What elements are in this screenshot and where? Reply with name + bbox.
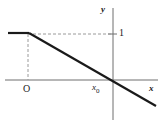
y-axis-label: y [101,5,105,14]
origin-label: O [23,84,30,94]
decreasing-line-segment [29,33,156,106]
plot-canvas [0,0,163,131]
tick-label-one: 1 [119,28,124,38]
line-graph-figure: y x 1 O x0 [0,0,163,131]
x-zero-label: x0 [92,83,100,95]
x-zero-label-subscript: 0 [96,87,100,95]
x-axis-label: x [149,84,154,93]
